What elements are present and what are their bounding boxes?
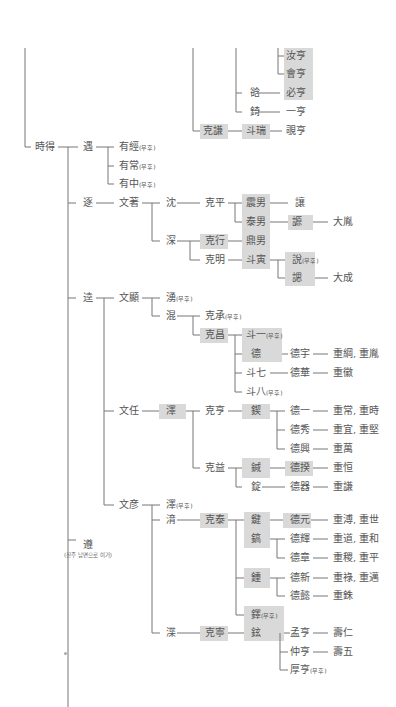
person-node: 諰 [292,272,302,284]
person-node: 遇 [83,141,93,153]
person-name: 渫 [166,627,176,638]
person-name: 重徽 [333,367,353,378]
no-heir-note: (무후) [261,612,278,619]
person-node: 混 [166,310,176,322]
person-name: 湇 [166,514,176,525]
person-name: 德新 [290,572,310,583]
person-node: 德興 [290,443,310,455]
person-name: 重道, 重和 [333,533,379,544]
person-node: 重溥, 重世 [333,514,379,526]
no-heir-note: (무후) [176,502,193,509]
person-name: 沈 [166,197,176,208]
person-node: 克謙 [203,125,223,137]
person-name: 遵 [83,539,93,550]
person-node: 文著 [119,197,139,209]
person-node: 克亨 [205,405,225,417]
person-node: 德輝 [290,533,310,545]
person-name: 有經 [119,141,139,152]
person-name: 文彦 [119,499,139,510]
person-node: 重稷, 重平 [333,552,379,564]
person-node: 湇 [166,514,176,526]
person-name: 克益 [205,462,225,473]
person-node: 謜 [292,216,302,228]
person-node: 澤 [166,405,176,417]
no-heir-note: (무후) [139,144,156,151]
person-node: 德華 [290,367,310,379]
person-name: 鍥 [251,405,261,416]
person-node: 克寧 [205,627,225,639]
person-name: 德懿 [290,590,310,601]
person-name: 重稷, 重平 [333,552,379,563]
person-name: 重祿, 重邁 [333,572,379,583]
person-name: 重常, 重時 [333,405,379,416]
person-name: 德章 [290,552,310,563]
person-node: 文顯 [119,292,139,304]
no-heir-note: (무후) [139,181,156,188]
person-name: 澤 [166,405,176,416]
person-name: 重恒 [333,462,353,473]
person-name: 斗八 [246,386,266,397]
person-name: 重溥, 重世 [333,514,379,525]
person-node: 德揆 [290,462,310,474]
person-name: 谽 [250,87,260,98]
person-node: 斗寅 [246,254,266,266]
person-name: 德一 [290,405,310,416]
person-name: 重綱, 重胤 [333,348,379,359]
person-node: 克昌 [205,329,225,341]
person-name: 逵 [83,292,93,303]
person-name: 深 [166,235,176,246]
person-node: 逐 [83,197,93,209]
person-name: 文著 [119,197,139,208]
person-node: 文彦 [119,499,139,511]
person-name: 壽五 [333,646,353,657]
person-name: 覗亨 [286,125,306,136]
person-name: 德華 [290,367,310,378]
person-name: 會亨 [286,68,306,79]
person-node: 德器 [290,481,310,493]
person-node: 有常(무후) [119,160,156,173]
person-node: 德 [251,348,261,360]
person-name: 文顯 [119,292,139,303]
person-node: 克平 [205,197,225,209]
person-node: 湧(무후) [166,292,193,305]
person-node: 有經(무후) [119,141,156,154]
stray-mark [64,652,67,655]
person-name: 諰 [292,272,302,283]
person-name: 德興 [290,443,310,454]
person-node: 斗七 [246,367,266,379]
person-name: 有中 [119,178,139,189]
person-node: 錠 [251,481,261,493]
person-name: 文任 [119,405,139,416]
person-node: 克益 [205,462,225,474]
person-node: 克明 [205,254,225,266]
person-node: 澤(무후) [166,499,193,512]
person-name: 重宜, 重堅 [333,424,379,435]
person-node: 壽五 [333,646,353,658]
no-heir-note: (무후) [225,313,242,320]
person-node: 斗八(무후) [246,386,283,399]
person-name: 鍾 [251,572,261,583]
person-name: 鍼 [251,462,261,473]
no-heir-note: (무후) [266,332,283,339]
person-node: 大胤 [333,216,353,228]
no-heir-note: (무후) [176,295,193,302]
person-node: 逵 [83,292,93,304]
person-node: 鐸(무후) [251,609,278,622]
person-name: 克亨 [205,405,225,416]
person-name: 泰男 [246,216,266,227]
person-node: 仲亨 [290,646,310,658]
person-node: 深 [166,235,176,247]
person-node: 克承(무후) [205,310,242,323]
person-node: 重宜, 重堅 [333,424,379,436]
person-node: 德章 [290,552,310,564]
person-node: 重徽 [333,367,353,379]
person-name: 德揆 [290,462,310,473]
person-name: 德秀 [290,424,310,435]
person-node: 時得 [35,141,55,153]
person-name: 壽仁 [333,627,353,638]
person-name: 時得 [35,141,55,152]
person-node: 鼎男 [246,235,266,247]
person-name: 有常 [119,160,139,171]
no-heir-note: (무후) [310,667,327,674]
person-name: 遇 [83,141,93,152]
